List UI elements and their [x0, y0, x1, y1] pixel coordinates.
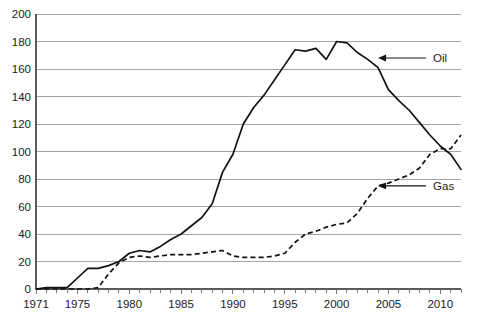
- y-tick-label: 40: [18, 228, 31, 240]
- y-tick-label: 60: [18, 201, 31, 213]
- x-tick-label: 2005: [376, 298, 402, 310]
- y-tick-label: 140: [12, 91, 31, 103]
- annotations-group: OilGas: [378, 52, 454, 192]
- y-tick-label: 160: [12, 63, 31, 75]
- y-tick-label: 20: [18, 256, 31, 268]
- x-tick-label: 1985: [168, 298, 194, 310]
- x-tick-label: 1971: [23, 298, 49, 310]
- series-line-oil: [36, 42, 461, 290]
- gas-annotation-label: Gas: [433, 180, 454, 192]
- x-tick-label: 1980: [116, 298, 142, 310]
- oil-annotation-label: Oil: [433, 52, 447, 64]
- series-line-gas: [36, 135, 461, 289]
- gas-annotation-arrow-head: [378, 182, 386, 189]
- x-tick-label: 1990: [220, 298, 246, 310]
- y-tick-label: 100: [12, 146, 31, 158]
- oil-annotation-arrow-head: [378, 55, 386, 62]
- x-axis-tick-labels: 197119751980198519901995200020052010: [23, 298, 453, 310]
- chart-container: 020406080100120140160180200 197119751980…: [0, 0, 489, 316]
- y-tick-label: 200: [12, 8, 31, 20]
- x-tick-label: 1975: [65, 298, 91, 310]
- y-tick-label: 180: [12, 36, 31, 48]
- x-axis-ticks: [36, 289, 461, 294]
- y-tick-label: 0: [25, 283, 31, 295]
- gridlines-group: [36, 14, 461, 262]
- y-tick-label: 80: [18, 173, 31, 185]
- x-tick-label: 2010: [427, 298, 453, 310]
- data-series-group: [36, 42, 461, 290]
- y-tick-label: 120: [12, 118, 31, 130]
- line-chart: 020406080100120140160180200 197119751980…: [0, 0, 489, 316]
- x-tick-label: 1995: [272, 298, 298, 310]
- y-axis-tick-labels: 020406080100120140160180200: [12, 8, 31, 295]
- x-tick-label: 2000: [324, 298, 350, 310]
